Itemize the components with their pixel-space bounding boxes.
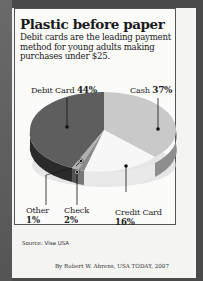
byline: By Robert W. Ahrens, USA TODAY, 2007 [55,263,169,269]
label-debit-card-pct: 44% [77,85,97,95]
pie-chart [0,0,203,281]
source-note: Source: Visa USA [22,240,69,246]
label-credit-card: Credit Card [115,207,162,217]
label-other-pct: 1% [26,215,40,225]
label-credit-card-pct: 16% [115,217,135,227]
label-check-pct: 2% [64,215,78,225]
label-other: Other [26,205,49,215]
label-check: Check [64,205,89,215]
label-debit-card: Debit Card 44% [31,85,97,95]
label-cash-pct: 37% [152,85,172,95]
label-cash: Cash 37% [130,85,172,95]
